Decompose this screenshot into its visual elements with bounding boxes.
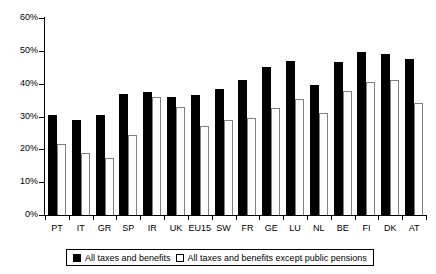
x-axis-tick xyxy=(236,215,260,220)
filled-square-icon xyxy=(73,254,81,262)
legend-item-all-taxes-and-benefits: All taxes and benefits xyxy=(73,253,171,263)
x-axis-label-be: BE xyxy=(331,222,355,234)
bar-sw-series1 xyxy=(215,89,224,215)
x-axis-label-dk: DK xyxy=(378,222,402,234)
bar-pt-series2 xyxy=(57,144,66,215)
plot-bars xyxy=(45,18,426,215)
y-axis-tick-label: 20% xyxy=(4,144,38,153)
bar-fi-series2 xyxy=(366,82,375,215)
x-axis-label-ir: IR xyxy=(140,222,164,234)
bar-group-fr xyxy=(236,18,260,215)
bar-pt-series1 xyxy=(48,115,57,215)
y-axis-tick-label: 60% xyxy=(4,13,38,22)
bar-group-uk xyxy=(164,18,188,215)
bar-be-series1 xyxy=(334,62,343,215)
y-axis-tick-label: 50% xyxy=(4,46,38,55)
y-axis-tick-label: 0% xyxy=(4,210,38,219)
bar-sp-series2 xyxy=(128,135,137,215)
y-axis-tick-label: 40% xyxy=(4,79,38,88)
bar-group-eu15 xyxy=(188,18,212,215)
y-axis-tick xyxy=(39,182,45,183)
bar-it-series1 xyxy=(72,120,81,215)
bar-gr-series1 xyxy=(96,115,105,215)
y-axis-tick xyxy=(39,149,45,150)
bar-lu-series2 xyxy=(295,99,304,215)
y-axis-tick xyxy=(39,51,45,52)
bar-group-ge xyxy=(259,18,283,215)
bar-eu15-series2 xyxy=(200,126,209,215)
x-axis-tick xyxy=(259,215,283,220)
x-axis-tick xyxy=(283,215,307,220)
x-axis-tick xyxy=(378,215,402,220)
bar-group-gr xyxy=(93,18,117,215)
x-axis-label-eu15: EU15 xyxy=(188,222,212,234)
bar-group-sp xyxy=(116,18,140,215)
bar-uk-series2 xyxy=(176,107,185,215)
bar-chart: 0%10%20%30%40%50%60% PTITGRSPIRUKEU15SWF… xyxy=(0,0,436,274)
bar-sw-series2 xyxy=(224,120,233,215)
x-axis-tick xyxy=(116,215,140,220)
x-axis-label-fr: FR xyxy=(236,222,260,234)
x-axis-label-fi: FI xyxy=(355,222,379,234)
bar-group-ir xyxy=(140,18,164,215)
bar-it-series2 xyxy=(81,153,90,215)
bar-ge-series1 xyxy=(262,67,271,215)
x-axis-tick xyxy=(93,215,117,220)
x-axis-label-nl: NL xyxy=(307,222,331,234)
hollow-square-icon xyxy=(176,254,184,262)
x-axis-ticks xyxy=(45,215,426,220)
y-axis-tick-label: 10% xyxy=(4,177,38,186)
legend-label: All taxes and benefits except public pen… xyxy=(188,253,367,263)
x-axis-tick xyxy=(45,215,69,220)
bar-group-nl xyxy=(307,18,331,215)
bar-sp-series1 xyxy=(119,94,128,215)
bar-group-at xyxy=(402,18,426,215)
bar-group-pt xyxy=(45,18,69,215)
x-axis-tick xyxy=(331,215,355,220)
x-axis-tick xyxy=(188,215,212,220)
x-axis-tick xyxy=(164,215,188,220)
bar-group-sw xyxy=(212,18,236,215)
bar-nl-series2 xyxy=(319,113,328,215)
bar-gr-series2 xyxy=(105,158,114,215)
bar-group-dk xyxy=(378,18,402,215)
bar-at-series2 xyxy=(414,103,423,215)
x-axis-label-uk: UK xyxy=(164,222,188,234)
x-axis-label-it: IT xyxy=(69,222,93,234)
y-axis-tick xyxy=(39,117,45,118)
x-axis-tick xyxy=(212,215,236,220)
bar-dk-series2 xyxy=(390,80,399,215)
bar-eu15-series1 xyxy=(191,95,200,215)
x-axis-label-sw: SW xyxy=(212,222,236,234)
bar-group-fi xyxy=(355,18,379,215)
legend-label: All taxes and benefits xyxy=(85,253,171,263)
bar-fr-series2 xyxy=(247,118,256,215)
legend-item-except-public-pensions: All taxes and benefits except public pen… xyxy=(176,253,367,263)
bar-group-it xyxy=(69,18,93,215)
x-axis-label-gr: GR xyxy=(93,222,117,234)
x-axis-tick xyxy=(402,215,426,220)
bar-group-be xyxy=(331,18,355,215)
y-axis-tick-label: 30% xyxy=(4,112,38,121)
bar-nl-series1 xyxy=(310,85,319,215)
bar-dk-series1 xyxy=(381,54,390,215)
y-axis-tick xyxy=(39,84,45,85)
x-axis-tick xyxy=(69,215,93,220)
x-axis-label-ge: GE xyxy=(259,222,283,234)
bar-ge-series2 xyxy=(271,108,280,215)
bar-lu-series1 xyxy=(286,61,295,215)
bar-be-series2 xyxy=(343,91,352,215)
bar-group-lu xyxy=(283,18,307,215)
x-axis-label-at: AT xyxy=(402,222,426,234)
chart-legend: All taxes and benefits All taxes and ben… xyxy=(66,249,374,266)
bar-fi-series1 xyxy=(357,52,366,215)
bar-ir-series1 xyxy=(143,92,152,215)
x-axis-tick xyxy=(140,215,164,220)
x-axis-label-pt: PT xyxy=(45,222,69,234)
x-axis-label-sp: SP xyxy=(116,222,140,234)
x-axis-tick xyxy=(307,215,331,220)
bar-fr-series1 xyxy=(238,80,247,215)
x-axis-tick xyxy=(355,215,379,220)
bar-ir-series2 xyxy=(152,97,161,215)
x-axis-labels: PTITGRSPIRUKEU15SWFRGELUNLBEFIDKAT xyxy=(45,222,426,234)
